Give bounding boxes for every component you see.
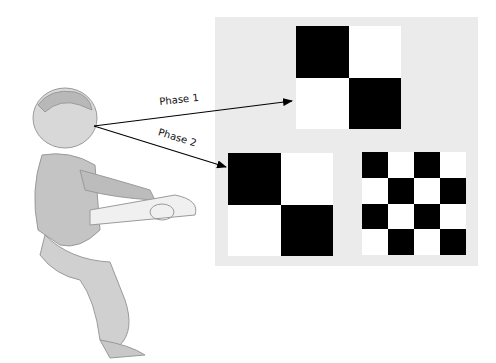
phase1-arrow: [94, 101, 292, 126]
gaze-arrows: [0, 0, 496, 363]
